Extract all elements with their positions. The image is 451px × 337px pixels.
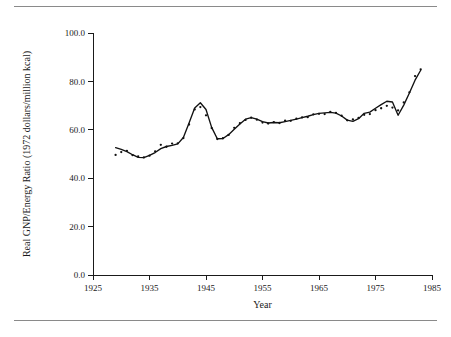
y-tick-label: 100.0 xyxy=(65,28,86,38)
y-tick-label: 20.0 xyxy=(69,222,85,232)
data-point xyxy=(222,137,224,139)
data-point xyxy=(391,106,393,108)
data-point xyxy=(357,117,359,119)
data-point xyxy=(420,68,422,70)
x-tick-label: 1985 xyxy=(423,283,442,293)
y-tick-label: 40.0 xyxy=(69,173,85,183)
data-point xyxy=(363,114,365,116)
y-axis-title: Real GNP/Energy Ratio (1972 dollars/mill… xyxy=(21,51,33,257)
data-point xyxy=(278,122,280,124)
data-point xyxy=(414,75,416,77)
data-point xyxy=(307,116,309,118)
data-point xyxy=(188,123,190,125)
data-point xyxy=(346,119,348,121)
x-tick-label: 1935 xyxy=(141,283,160,293)
data-point xyxy=(182,137,184,139)
data-point xyxy=(171,142,173,144)
data-point xyxy=(216,138,218,140)
x-axis-group xyxy=(93,275,432,280)
data-points-group xyxy=(114,68,421,158)
data-point xyxy=(177,142,179,144)
data-point xyxy=(233,127,235,129)
data-point xyxy=(239,122,241,124)
data-point xyxy=(154,150,156,152)
gnp-energy-ratio-chart: 0.020.040.060.080.0100.0 192519351945195… xyxy=(0,0,451,320)
data-point xyxy=(397,109,399,111)
y-axis-group xyxy=(88,33,93,275)
data-point xyxy=(335,112,337,114)
data-point xyxy=(295,118,297,120)
data-point xyxy=(374,109,376,111)
y-tick-labels: 0.020.040.060.080.0100.0 xyxy=(65,28,86,280)
x-tick-labels: 1925193519451955196519751985 xyxy=(84,283,442,293)
x-axis-title: Year xyxy=(253,299,272,310)
data-point xyxy=(120,151,122,153)
x-tick-label: 1945 xyxy=(197,283,216,293)
data-point xyxy=(273,121,275,123)
y-tick-label: 0.0 xyxy=(74,270,86,280)
data-point xyxy=(199,106,201,108)
data-point xyxy=(250,117,252,119)
y-tick-label: 60.0 xyxy=(69,125,85,135)
data-point xyxy=(408,91,410,93)
data-point xyxy=(352,118,354,120)
data-point xyxy=(211,127,213,129)
data-point xyxy=(312,113,314,115)
data-point xyxy=(301,116,303,118)
data-point xyxy=(194,108,196,110)
x-tick-label: 1975 xyxy=(367,283,386,293)
data-point xyxy=(340,115,342,117)
data-point xyxy=(284,119,286,121)
chart-plot-area: 0.020.040.060.080.0100.0 192519351945195… xyxy=(0,0,451,320)
data-point xyxy=(131,154,133,156)
data-point xyxy=(143,156,145,158)
x-tick-label: 1925 xyxy=(84,283,103,293)
data-point xyxy=(267,122,269,124)
data-point xyxy=(205,114,207,116)
data-point xyxy=(126,150,128,152)
data-point xyxy=(403,101,405,103)
data-point xyxy=(318,113,320,115)
x-tick-label: 1965 xyxy=(310,283,329,293)
x-tick-label: 1955 xyxy=(254,283,273,293)
data-point xyxy=(244,119,246,121)
data-point xyxy=(386,105,388,107)
data-point xyxy=(165,146,167,148)
data-point xyxy=(329,111,331,113)
data-point xyxy=(137,155,139,157)
y-tick-label: 80.0 xyxy=(69,77,85,87)
data-point xyxy=(324,113,326,115)
data-point xyxy=(227,134,229,136)
data-point xyxy=(114,154,116,156)
data-point xyxy=(256,118,258,120)
data-point xyxy=(148,155,150,157)
figure-frame: 0.020.040.060.080.0100.0 192519351945195… xyxy=(0,0,451,337)
figure-bottom-rule xyxy=(14,320,437,321)
data-point xyxy=(380,107,382,109)
data-point xyxy=(261,121,263,123)
data-point xyxy=(290,120,292,122)
data-point xyxy=(369,113,371,115)
data-point xyxy=(160,144,162,146)
